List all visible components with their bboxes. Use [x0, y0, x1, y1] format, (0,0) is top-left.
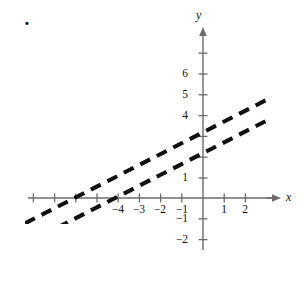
axes-group	[28, 27, 281, 250]
graph-figure	[0, 0, 304, 285]
x-tick-label--2: −2	[150, 203, 170, 215]
x-tick-label-1: 1	[217, 203, 231, 215]
plot-clip-masks	[0, 0, 304, 285]
x-tick-label--3: −3	[129, 203, 149, 215]
x-tick-label--1: −1	[172, 203, 192, 215]
y-tick-label--2: −2	[172, 233, 192, 245]
x-tick-label-2: 2	[238, 203, 252, 215]
y-tick-label-4: 4	[178, 109, 192, 121]
x-tick-label--4: −4	[108, 203, 128, 215]
y-tick-label-6: 6	[178, 67, 192, 79]
y-tick-label-5: 5	[178, 88, 192, 100]
y-axis-arrow-icon	[199, 27, 207, 36]
x-axis-label: x	[286, 190, 291, 205]
plot-lines	[25, 98, 271, 245]
y-axis-label: y	[196, 8, 201, 23]
y-tick-label-1: 1	[178, 171, 192, 183]
